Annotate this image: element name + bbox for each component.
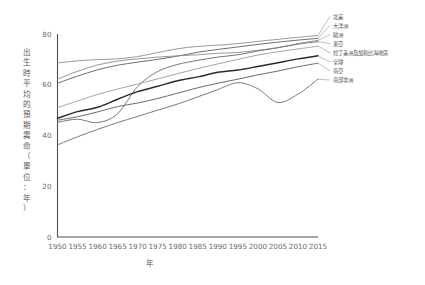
legend-item-label: 南部非洲 — [333, 76, 353, 84]
x-axis-tick-label: 1960 — [88, 242, 107, 251]
x-axis-title: 年 — [146, 258, 154, 268]
legend-item-label: 歐洲 — [333, 31, 343, 39]
legend-leader-line — [318, 46, 330, 53]
y-axis-title-char: （ — [23, 152, 31, 161]
y-axis-tick-label: 80 — [42, 30, 52, 39]
x-axis-tick-label: 1965 — [108, 242, 126, 251]
x-axis-tick-label: 2005 — [269, 242, 287, 251]
y-axis-title-char: 位 — [23, 172, 31, 182]
legend-item-label: 大洋洲 — [333, 22, 348, 30]
legend-leader-line — [318, 35, 330, 41]
x-axis-tick-label: 1975 — [149, 242, 167, 251]
y-axis-title-char: 均 — [23, 89, 31, 99]
legend-leader-line — [318, 16, 330, 35]
y-axis-title-char: 壽 — [23, 130, 31, 140]
y-axis-title-char: 命 — [23, 141, 31, 151]
y-axis-title-char: 期 — [23, 121, 31, 130]
chart-axes — [58, 34, 319, 237]
x-axis-tick-label: 1955 — [68, 242, 86, 251]
y-axis-title-char: 出 — [23, 47, 31, 57]
x-axis-tick-label: 2010 — [289, 242, 308, 251]
y-axis-tick-label: 0 — [47, 233, 52, 242]
y-axis-title: 出生時平均的預期壽命（單位：年） — [23, 47, 31, 213]
x-axis-tick-label: 1995 — [229, 242, 247, 251]
y-axis-title-char: 年 — [23, 193, 31, 203]
legend-item-label: 東亞 — [333, 40, 344, 48]
y-axis-title-char: 平 — [23, 79, 31, 88]
y-axis-title-char: 的 — [23, 99, 31, 109]
y-axis-tick-label: 60 — [42, 80, 52, 89]
legend-leader-line — [318, 25, 330, 38]
x-axis-tick-label: 1985 — [189, 242, 207, 251]
x-axis-tick-label: 1980 — [169, 242, 188, 251]
legend-leader-line — [318, 63, 330, 71]
series-line — [58, 63, 319, 120]
legend-leader-line — [318, 56, 330, 62]
series-line — [58, 36, 319, 63]
legend-item-label: 拉丁美洲及加勒比海地區 — [333, 49, 389, 57]
y-axis-title-char: ） — [23, 204, 31, 213]
y-axis-title-char: ： — [23, 183, 31, 192]
series-line — [58, 38, 319, 83]
legend-item-label: 全球 — [333, 58, 344, 65]
y-axis-tick-label: 20 — [42, 182, 52, 191]
y-axis-title-char: 生 — [23, 57, 31, 67]
x-axis-tick-label: 1990 — [209, 242, 228, 251]
x-axis-tick-label: 2000 — [249, 242, 268, 251]
y-axis-title-char: 預 — [23, 110, 31, 119]
y-axis-title-char: 單 — [23, 162, 31, 171]
legend-item-label: 南亞 — [333, 67, 344, 74]
legend-leader-line — [318, 42, 330, 44]
x-axis-tick-label: 1950 — [48, 242, 67, 251]
x-axis-tick-label: 1970 — [129, 242, 148, 251]
legend-leader-line — [318, 79, 330, 80]
legend-item-label: 北美 — [333, 13, 344, 21]
x-axis-tick-label: 2015 — [309, 242, 327, 251]
y-axis-title-char: 時 — [23, 69, 31, 78]
life-expectancy-chart: 0204060801950195519601965197019751980198… — [0, 0, 425, 285]
y-axis-tick-label: 40 — [42, 131, 52, 140]
chart-canvas: 0204060801950195519601965197019751980198… — [0, 0, 425, 285]
